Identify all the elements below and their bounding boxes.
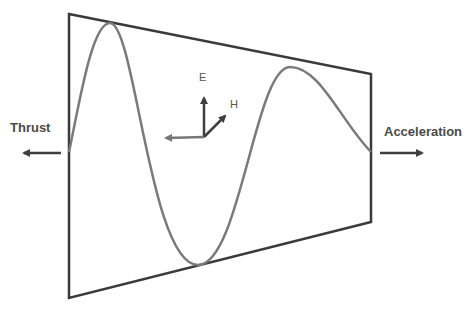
trapezoid-frame xyxy=(69,14,371,298)
thrust-label: Thrust xyxy=(10,120,50,135)
axes-icon xyxy=(166,98,225,138)
sine-wave xyxy=(69,23,371,265)
diagram-canvas xyxy=(0,0,471,315)
h-axis-arrow xyxy=(204,116,225,137)
h-axis-label: H xyxy=(230,98,238,110)
acceleration-label: Acceleration xyxy=(384,124,462,139)
e-axis-label: E xyxy=(199,71,206,83)
k-axis-arrow xyxy=(166,137,204,138)
